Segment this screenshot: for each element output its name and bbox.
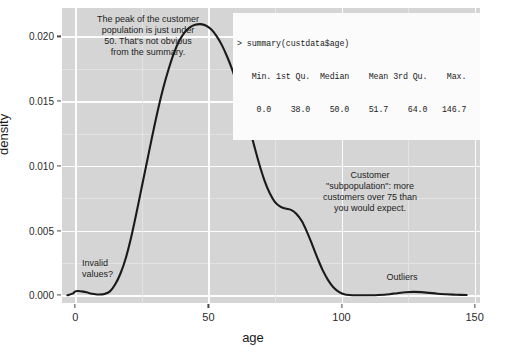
x-axis-label: age bbox=[0, 330, 506, 345]
x-tick-mark bbox=[474, 304, 475, 308]
invalid-values-annotation: Invalid values? bbox=[82, 258, 152, 280]
x-tick-label: 50 bbox=[202, 311, 214, 323]
x-tick-mark bbox=[208, 304, 209, 308]
y-axis-label: density bbox=[0, 114, 11, 155]
y-tick-label: 0.020 bbox=[29, 31, 54, 42]
summary-header-row: Min. 1st Qu. Median Mean 3rd Qu. Max. bbox=[237, 71, 478, 82]
outliers-annotation: Outliers bbox=[362, 272, 442, 283]
y-tick-mark bbox=[57, 101, 61, 102]
y-tick-mark bbox=[57, 295, 61, 296]
x-tick-label: 0 bbox=[72, 311, 78, 323]
y-tick-mark bbox=[57, 165, 61, 166]
y-tick-mark bbox=[57, 230, 61, 231]
x-tick-label: 100 bbox=[332, 311, 350, 323]
density-plot-figure: The peak of the customer population is j… bbox=[0, 0, 506, 352]
y-tick-label: 0.015 bbox=[29, 96, 54, 107]
y-tick-mark bbox=[57, 36, 61, 37]
x-tick-mark bbox=[75, 304, 76, 308]
x-tick-label: 150 bbox=[465, 311, 483, 323]
y-tick-label: 0.010 bbox=[29, 160, 54, 171]
peak-annotation: The peak of the customer population is j… bbox=[78, 14, 218, 58]
subpopulation-annotation: Customer "subpopulation": more customers… bbox=[290, 170, 450, 214]
summary-value-row: 0.0 38.0 50.0 51.7 64.0 146.7 bbox=[237, 104, 478, 115]
r-summary-output-box: > summary(custdata$age) Min. 1st Qu. Med… bbox=[233, 13, 480, 140]
y-tick-label: 0.000 bbox=[29, 290, 54, 301]
summary-command: > summary(custdata$age) bbox=[237, 38, 478, 49]
x-tick-mark bbox=[341, 304, 342, 308]
y-tick-label: 0.005 bbox=[29, 225, 54, 236]
